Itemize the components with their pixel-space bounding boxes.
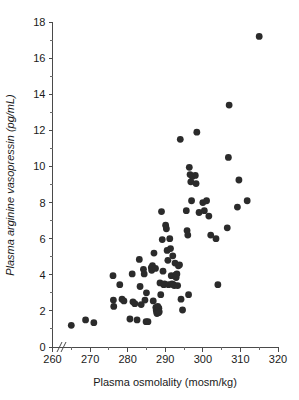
y-tick-label: 6 [39,233,45,245]
data-point [184,232,191,239]
data-point [256,33,263,40]
data-point [152,265,159,272]
data-point [244,197,251,204]
data-point [169,252,176,259]
y-axis-title: Plasma arginine vasopressin (pg/mL) [4,94,16,276]
data-point [158,208,165,215]
data-point [185,291,192,298]
data-point [145,318,152,325]
x-tick-label: 320 [269,353,287,365]
data-point [201,207,208,214]
data-point [141,270,148,277]
x-tick-label: 290 [156,353,174,365]
data-point [193,129,200,136]
y-tick-label: 8 [39,197,45,209]
data-point [179,307,186,314]
data-point [116,281,123,288]
data-point [159,236,166,243]
data-point [82,317,89,324]
axis-lines [53,22,279,348]
plot-canvas: 024681012141618 260270280290300310320 Pl… [0,0,299,400]
data-point [150,298,157,305]
y-tick-label: 4 [39,269,45,281]
y-tick-label: 14 [33,88,45,100]
data-point [234,204,241,211]
data-point [214,281,221,288]
data-point [127,316,134,323]
y-tick-label: 0 [39,341,45,353]
data-point [110,272,117,279]
data-point [121,298,128,305]
y-axis-ticks [49,22,53,347]
data-point [174,282,181,289]
data-point [167,245,174,252]
data-point [90,319,97,326]
data-point [166,235,173,242]
data-point [178,296,185,303]
data-point [226,102,233,109]
data-point [213,235,220,242]
data-point [160,268,167,275]
data-point [174,270,181,277]
y-tick-label: 12 [33,124,45,136]
data-point [186,164,193,171]
data-point [203,197,210,204]
data-point [157,291,164,298]
data-point [136,256,143,263]
data-point [143,289,150,296]
data-point [183,207,190,214]
data-point [225,154,232,161]
y-tick-label: 16 [33,52,45,64]
x-tick-label: 280 [118,353,136,365]
data-point [192,172,199,179]
y-tick-label: 10 [33,160,45,172]
data-point [110,297,117,304]
data-point [134,317,141,324]
x-axis-title: Plasma osmolality (mosm/kg) [93,376,237,388]
data-point [177,136,184,143]
data-point [176,261,183,268]
x-tick-label: 310 [231,353,249,365]
data-point [163,225,170,232]
data-point [137,283,144,290]
y-tick-label: 18 [33,16,45,28]
data-point [131,300,138,307]
x-tick-label: 270 [81,353,99,365]
data-point [193,180,200,187]
x-axis-tick-labels: 260270280290300310320 [43,353,287,365]
data-point [68,322,75,329]
data-point [129,270,136,277]
data-point [151,250,158,257]
y-axis-tick-labels: 024681012141618 [33,16,45,353]
scatter-plot-figure: 024681012141618 260270280290300310320 Pl… [0,0,299,400]
data-point [205,213,212,220]
x-tick-label: 260 [43,353,61,365]
data-point [236,177,243,184]
x-tick-label: 300 [194,353,212,365]
data-point [110,303,117,310]
data-point [156,308,163,315]
data-point [142,297,149,304]
data-point [188,197,195,204]
data-point [224,224,231,231]
y-tick-label: 2 [39,305,45,317]
data-points-layer [68,33,263,329]
